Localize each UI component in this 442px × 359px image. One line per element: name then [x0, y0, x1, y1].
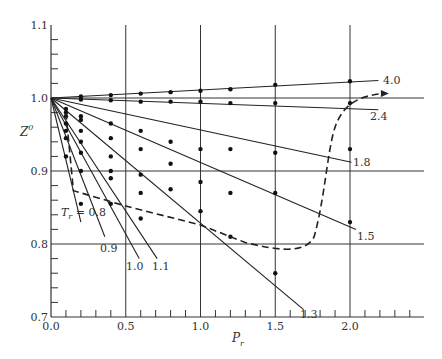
- data-point: [109, 98, 113, 102]
- data-point: [273, 151, 277, 155]
- data-point: [273, 101, 277, 105]
- data-point: [64, 154, 68, 158]
- data-point: [79, 140, 83, 144]
- data-point: [228, 147, 232, 151]
- curve-label-1-0: 1.0: [126, 260, 144, 273]
- y-axis-title: Z0: [19, 123, 33, 139]
- chart-area: 0.00.51.01.52.00.70.80.91.01.1 0.91.01.1…: [0, 0, 442, 359]
- curve-label-2-4: 2.4: [370, 110, 388, 123]
- legend-label-tr-0-8: Tr = 0.8: [61, 206, 106, 221]
- y-axis-title-sup: 0: [28, 123, 33, 132]
- data-point: [109, 93, 113, 97]
- data-point: [348, 79, 352, 83]
- arrow-head-icon: [381, 90, 389, 97]
- data-point: [348, 220, 352, 224]
- x-axis-title: Pr: [231, 331, 245, 348]
- curve-labels: 0.91.01.11.31.51.82.44.0: [100, 74, 401, 321]
- data-point: [198, 180, 202, 184]
- x-tick-label: 1.5: [267, 320, 285, 333]
- data-point: [79, 114, 83, 118]
- x-tick-label: 1.0: [192, 320, 210, 333]
- y-tick-label: 1.1: [31, 19, 49, 32]
- curve-label-4-0: 4.0: [383, 74, 401, 87]
- series-line-tr-1-3: [51, 98, 304, 310]
- data-point: [79, 94, 83, 98]
- data-point: [109, 169, 113, 173]
- data-point: [79, 129, 83, 133]
- curve-label-0-9: 0.9: [100, 242, 118, 255]
- data-point: [198, 209, 202, 213]
- data-point: [139, 216, 143, 220]
- data-point: [168, 140, 172, 144]
- series-lines: [51, 80, 378, 309]
- curve-label-1-8: 1.8: [353, 156, 371, 169]
- series-line-tr-4-0: [51, 80, 378, 98]
- data-point: [168, 162, 172, 166]
- x-tick-label: 2.0: [341, 320, 359, 333]
- data-point: [228, 101, 232, 105]
- gridlines: [51, 25, 424, 317]
- data-point: [139, 91, 143, 95]
- dashed-boundary-curve: [66, 90, 389, 249]
- data-point: [79, 151, 83, 155]
- x-axis-title-sub: r: [240, 339, 245, 348]
- y-tick-label: 0.9: [31, 165, 49, 178]
- data-point: [64, 107, 68, 111]
- data-point: [139, 147, 143, 151]
- series-line-tr-2-4: [51, 98, 378, 110]
- data-point: [109, 136, 113, 140]
- data-point: [109, 121, 113, 125]
- data-point: [168, 99, 172, 103]
- curve-label-1-5: 1.5: [357, 230, 375, 243]
- x-tick-label: 0.5: [117, 320, 135, 333]
- data-point: [109, 176, 113, 180]
- curve-label-1-1: 1.1: [152, 260, 170, 273]
- data-point: [348, 147, 352, 151]
- data-point: [139, 99, 143, 103]
- data-point: [79, 169, 83, 173]
- data-point: [139, 172, 143, 176]
- data-point: [273, 83, 277, 87]
- data-point: [228, 191, 232, 195]
- data-point: [109, 154, 113, 158]
- data-point: [198, 99, 202, 103]
- data-point: [139, 191, 143, 195]
- y-tick-label: 0.7: [31, 311, 49, 324]
- y-tick-label: 1.0: [31, 92, 49, 105]
- data-point: [273, 271, 277, 275]
- data-point: [273, 191, 277, 195]
- data-point: [109, 202, 113, 206]
- data-point: [139, 129, 143, 133]
- data-point: [198, 147, 202, 151]
- data-point: [228, 87, 232, 91]
- data-point: [198, 89, 202, 93]
- tick-labels: 0.00.51.01.52.00.70.80.91.01.1: [31, 19, 359, 333]
- data-point: [168, 90, 172, 94]
- y-tick-label: 0.8: [31, 238, 49, 251]
- data-point: [168, 187, 172, 191]
- tr-value: = 0.8: [72, 206, 106, 219]
- curve-label-1-3: 1.3: [300, 308, 318, 321]
